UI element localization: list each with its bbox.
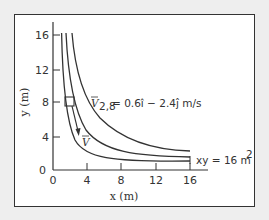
x-axis-label: x (m)	[110, 190, 139, 203]
curve-equation: xy = 16 m	[196, 154, 251, 166]
velocity-vector-label: V	[82, 136, 91, 148]
x-tick-0: 0	[50, 174, 57, 187]
y-tick-0: 0	[39, 164, 46, 177]
y-axis-label: y (m)	[18, 88, 31, 118]
x-tick-16: 16	[183, 174, 197, 187]
y-tick-12: 12	[35, 64, 49, 77]
velocity-expression: = 0.6î − 2.4ĵ m/s	[112, 97, 201, 109]
streamline-diagram: 0 4 8 12 16 0 4 8 12 16 x (m) y (m) V V …	[0, 0, 269, 220]
x-ticks	[87, 163, 190, 170]
y-tick-16: 16	[35, 29, 49, 42]
x-tick-4: 4	[84, 174, 91, 187]
curve-equation-sup: 2	[246, 148, 253, 160]
velocity-annotation: V 2,8 = 0.6î − 2.4ĵ m/s	[91, 97, 201, 112]
y-tick-4: 4	[42, 131, 49, 144]
curve-label: xy = 16 m 2	[196, 148, 253, 166]
x-tick-12: 12	[149, 174, 163, 187]
y-tick-8: 8	[42, 96, 49, 109]
x-tick-8: 8	[118, 174, 125, 187]
y-ticks	[53, 35, 60, 137]
velocity-arrow-icon	[72, 106, 81, 136]
